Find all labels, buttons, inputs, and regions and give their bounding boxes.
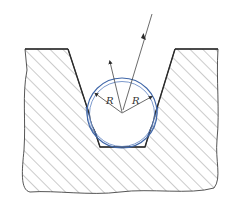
- radius-label-left: R: [105, 95, 114, 106]
- v-groove-ball-diagram: R R: [0, 0, 235, 211]
- radius-label-right: R: [131, 95, 140, 106]
